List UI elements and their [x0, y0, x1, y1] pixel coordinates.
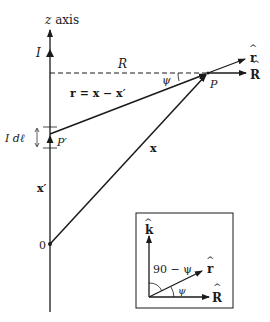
- point-P-label: P: [209, 78, 218, 91]
- vector-x: x: [50, 75, 206, 244]
- inset-complement-angle-label: 90 − ψ: [153, 263, 192, 276]
- R-distance-label: R: [117, 57, 127, 71]
- vector-r: r = x − x′: [50, 74, 206, 134]
- dashed-R-line: R: [50, 57, 208, 73]
- current-element: I dℓ: [4, 127, 57, 148]
- origin-point: [48, 242, 52, 246]
- current-arrow: I: [35, 46, 54, 60]
- point-P-prime-label: P′: [56, 136, 67, 149]
- inset-unit-r-label: r: [207, 262, 214, 276]
- inset-psi-arc: [171, 287, 174, 297]
- psi-label: ψ: [162, 74, 171, 87]
- z-axis: z axis: [44, 13, 79, 312]
- diagram-canvas: z axis I R ψ r = x − x′ x P ^ r ^ R: [0, 0, 270, 322]
- vector-x-label: x: [150, 142, 157, 155]
- vector-r-label: r = x − x′: [70, 87, 126, 100]
- psi-arc: [178, 73, 179, 81]
- inset-unit-R-label: R: [212, 291, 223, 305]
- inset-psi-label: ψ: [178, 285, 186, 296]
- z-axis-label: z axis: [44, 13, 79, 27]
- origin-label: 0: [39, 239, 46, 252]
- inset-box: ^ k ^ R ^ r 90 − ψ ψ: [136, 213, 233, 308]
- current-element-label: I dℓ: [4, 132, 25, 145]
- unit-R-label: R: [250, 68, 261, 82]
- diagram-figure: z axis I R ψ r = x − x′ x P ^ r ^ R: [0, 0, 270, 322]
- vector-x-prime-label: x′: [37, 182, 47, 195]
- inset-complement-arc: [149, 283, 162, 291]
- current-label: I: [35, 46, 41, 60]
- inset-unit-k-label: k: [145, 223, 154, 237]
